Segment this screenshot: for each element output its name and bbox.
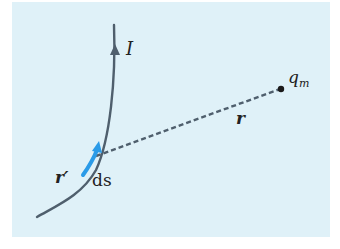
element-label: ds xyxy=(92,170,112,190)
current-label: I xyxy=(125,38,134,59)
charge-point xyxy=(278,86,284,92)
charge-label: qm xyxy=(288,67,309,90)
separation-label: r xyxy=(236,108,246,128)
current-element-arrow-icon xyxy=(92,141,102,153)
charge-subscript: m xyxy=(299,77,309,90)
diagram-canvas: I r′ ds qm r xyxy=(0,0,340,249)
charge-symbol: q xyxy=(288,67,299,87)
source-position-label: r′ xyxy=(55,167,69,187)
separation-vector-line xyxy=(96,89,280,156)
current-arrow-icon xyxy=(110,44,120,55)
